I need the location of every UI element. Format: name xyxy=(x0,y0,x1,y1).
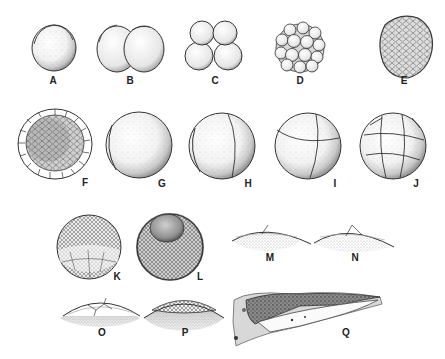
stage-i-sphere xyxy=(275,113,341,179)
stage-h-sphere xyxy=(189,113,255,179)
stage-d-morula xyxy=(275,22,325,73)
stage-o-section xyxy=(60,298,140,327)
label-stage-d: D xyxy=(296,76,303,86)
label-stage-f: F xyxy=(82,178,88,188)
label-stage-k: K xyxy=(113,272,120,282)
label-stage-q: Q xyxy=(342,328,350,338)
stage-b-two-cell xyxy=(97,25,164,72)
stage-n-section xyxy=(314,225,394,252)
stage-k-epiboly xyxy=(57,215,121,279)
stage-m-section xyxy=(232,225,311,251)
stage-l-epiboly xyxy=(137,214,203,280)
label-stage-h: H xyxy=(244,179,251,189)
stage-j-sphere xyxy=(360,113,426,179)
stage-q-section xyxy=(233,293,382,346)
embryo-stages-plate: A B C D E F G H I J K L M N O P Q xyxy=(0,0,445,359)
label-stage-o: O xyxy=(98,328,106,338)
label-stage-n: N xyxy=(351,253,358,263)
label-stage-m: M xyxy=(266,253,274,263)
label-stage-l: L xyxy=(197,272,203,282)
label-stage-p: P xyxy=(182,328,189,338)
label-stage-a: A xyxy=(49,76,56,86)
stage-e-blastula xyxy=(380,16,433,78)
label-stage-g: G xyxy=(158,179,166,189)
label-stage-i: I xyxy=(334,179,337,189)
label-stage-b: B xyxy=(126,76,133,86)
stage-a-zygote xyxy=(32,25,76,71)
stage-c-four-cell xyxy=(185,21,242,70)
label-stage-j: J xyxy=(413,179,419,189)
label-stage-e: E xyxy=(401,76,408,86)
stage-g-sphere xyxy=(106,112,172,178)
label-stage-c: C xyxy=(211,76,218,86)
stage-f-section xyxy=(18,109,92,179)
